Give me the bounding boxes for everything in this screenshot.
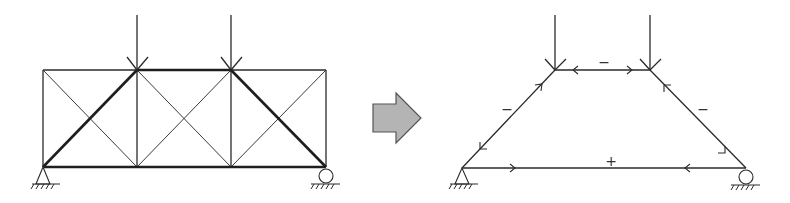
roller-support-right-2 <box>731 170 760 190</box>
roller-support-right <box>311 169 340 189</box>
pin-support-left <box>31 167 60 189</box>
left-strut <box>462 70 555 168</box>
load-arrow-4 <box>640 15 661 70</box>
pin-support-left-2 <box>449 168 478 189</box>
right-force-path: − − − + <box>449 15 760 190</box>
right-strut-sign: − <box>697 101 709 117</box>
load-arrow-2 <box>221 15 242 70</box>
transition-arrow-icon <box>373 93 421 143</box>
load-arrow-3 <box>545 15 566 70</box>
left-strut-sign: − <box>501 101 513 117</box>
load-arrow-1 <box>127 15 148 70</box>
force-marks <box>480 66 725 172</box>
bottom-tie-sign: + <box>605 153 617 169</box>
left-truss <box>31 15 340 189</box>
truss-diagram: − − − + <box>0 0 790 203</box>
top-strut-sign: − <box>598 54 610 70</box>
